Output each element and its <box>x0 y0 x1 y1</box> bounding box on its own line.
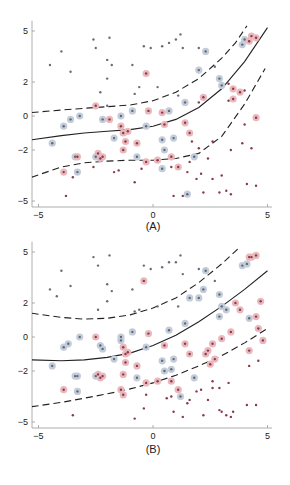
data-point-pos-sv <box>99 157 101 159</box>
data-point-pos <box>225 190 227 192</box>
data-point-pos <box>186 171 188 173</box>
data-point-neg-sv <box>161 139 163 141</box>
data-point-pos-sv <box>255 117 257 119</box>
data-point-pos-sv <box>156 159 158 161</box>
x-tick-label: −5 <box>33 431 43 441</box>
data-point-pos <box>186 402 188 404</box>
data-point-pos <box>218 387 220 389</box>
data-point-pos-sv <box>170 380 172 382</box>
data-point-pos <box>255 404 257 406</box>
data-point-pos-sv <box>136 365 138 367</box>
data-point-neg <box>97 264 99 266</box>
data-point-neg <box>106 105 108 107</box>
data-point-neg-sv <box>218 77 220 79</box>
data-point-neg-sv <box>163 149 165 151</box>
data-point-pos <box>207 157 209 159</box>
data-point-pos <box>250 147 252 149</box>
data-point-pos-sv <box>163 344 165 346</box>
data-point-neg <box>150 47 152 49</box>
data-point-pos-sv <box>95 105 97 107</box>
decision-boundary-curve <box>32 28 268 140</box>
data-point-pos <box>113 171 115 173</box>
data-point-pos-sv <box>99 377 101 379</box>
data-point-neg <box>49 64 51 66</box>
data-point-pos-sv <box>108 118 110 120</box>
data-point-pos-sv <box>62 389 64 391</box>
data-point-pos <box>227 83 229 85</box>
panel-b-scatter-plot: 520−2−5−505 <box>18 242 272 441</box>
data-point-neg-sv <box>248 317 250 319</box>
data-point-pos-sv <box>136 142 138 144</box>
data-point-neg <box>56 295 58 297</box>
data-point-neg <box>150 268 152 270</box>
data-point-neg-sv <box>198 69 200 71</box>
data-point-pos <box>182 195 184 197</box>
y-tick-label: 0 <box>23 332 28 342</box>
data-point-pos <box>145 394 147 396</box>
data-point-pos <box>198 147 200 149</box>
y-tick-label: −5 <box>18 196 28 206</box>
data-point-neg <box>177 94 179 96</box>
data-point-neg-sv <box>186 193 188 195</box>
data-point-pos-sv <box>120 125 122 127</box>
data-point-pos-sv <box>145 72 147 74</box>
data-point-neg <box>143 264 145 266</box>
data-point-neg-sv <box>204 50 206 52</box>
data-point-pos-sv <box>97 373 99 375</box>
data-point-pos-sv <box>214 358 216 360</box>
data-point-neg-sv <box>241 264 243 266</box>
x-tick-label: 0 <box>150 210 155 220</box>
data-point-neg <box>175 261 177 263</box>
data-point-pos-sv <box>127 351 129 353</box>
data-point-pos-sv <box>184 343 186 345</box>
data-point-pos-sv <box>250 256 252 258</box>
data-point-neg <box>214 280 216 282</box>
data-point-pos <box>140 168 142 170</box>
data-point-neg-sv <box>172 358 174 360</box>
data-point-neg-sv <box>69 118 71 120</box>
data-point-pos-sv <box>156 380 158 382</box>
data-point-neg-sv <box>241 43 243 45</box>
panel-b-label: (B) <box>146 443 161 455</box>
data-point-neg-sv <box>101 348 103 350</box>
data-point-neg-sv <box>145 346 147 348</box>
data-point-neg-sv <box>184 101 186 103</box>
data-point-pos <box>195 390 197 392</box>
data-point-pos-sv <box>202 96 204 98</box>
data-point-neg-sv <box>202 288 204 290</box>
data-point-pos-sv <box>239 91 241 93</box>
x-tick-label: 5 <box>265 210 270 220</box>
data-point-pos <box>202 191 204 193</box>
data-point-pos <box>221 174 223 176</box>
data-point-neg-sv <box>168 329 170 331</box>
data-point-pos-sv <box>232 98 234 100</box>
data-point-neg <box>168 261 170 263</box>
data-point-neg <box>108 254 110 256</box>
data-point-pos <box>143 407 145 409</box>
data-point-neg-sv <box>193 377 195 379</box>
y-tick-label: −2 <box>18 366 28 376</box>
y-tick-label: −5 <box>18 417 28 427</box>
data-point-neg-sv <box>218 315 220 317</box>
data-point-pos <box>170 166 172 168</box>
data-point-neg <box>182 273 184 275</box>
data-point-pos <box>218 409 220 411</box>
data-point-neg <box>177 305 179 307</box>
data-point-neg <box>161 266 163 268</box>
data-point-pos <box>246 404 248 406</box>
data-point-pos-sv <box>188 132 190 134</box>
data-point-pos <box>92 166 94 168</box>
data-point-pos-sv <box>163 123 165 125</box>
data-point-pos <box>248 365 250 367</box>
y-tick-label: −2 <box>18 145 28 155</box>
data-point-neg-sv <box>113 358 115 360</box>
data-point-neg <box>106 59 108 61</box>
y-tick-label: 5 <box>23 247 28 257</box>
data-point-pos <box>211 380 213 382</box>
data-point-pos <box>225 414 227 416</box>
data-point-pos-sv <box>145 382 147 384</box>
data-point-neg-sv <box>184 322 186 324</box>
data-point-neg <box>179 33 181 35</box>
data-point-neg-sv <box>172 137 174 139</box>
data-point-neg <box>60 270 62 272</box>
